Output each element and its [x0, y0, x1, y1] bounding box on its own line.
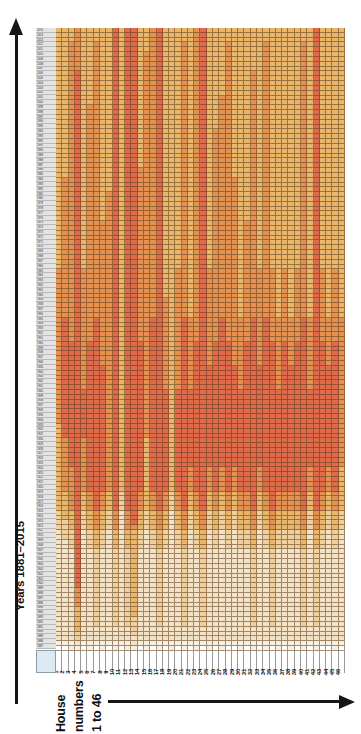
x-tick-label: 46 — [339, 651, 345, 673]
x-axis-title-line-3: 1 to 46 — [90, 694, 104, 732]
right-arrow-icon — [339, 695, 355, 709]
y-tick-label: 1887 — [36, 644, 56, 649]
x-tick-label-row: 1234567891011121314151617181920212223242… — [56, 651, 345, 673]
x-axis-title-line-1: House — [54, 695, 68, 732]
x-axis-title-line-2: numbers — [72, 681, 86, 732]
y-tick-label-column: 2015201420132012201120102009200820072006… — [36, 28, 56, 650]
heatmap-grid[interactable] — [56, 28, 345, 650]
x-axis — [108, 694, 355, 712]
x-axis-title: House numbers 1 to 46 — [40, 680, 98, 734]
y-axis-title: Years 1881–2015 — [14, 501, 26, 631]
axis-corner-box — [36, 650, 56, 673]
x-axis-line — [108, 700, 340, 703]
